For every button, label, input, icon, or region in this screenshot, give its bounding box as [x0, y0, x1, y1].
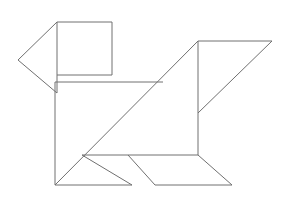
canvas-background — [0, 0, 288, 201]
tangram-figure-canvas: Tangram silhouette of a dog — [0, 0, 288, 201]
